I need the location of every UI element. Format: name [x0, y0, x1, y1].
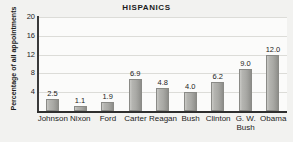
bar-slot: 9.0	[232, 17, 260, 111]
bar-value-label: 2.5	[37, 89, 68, 98]
y-axis-tick-label: 12	[1, 51, 35, 59]
x-axis-spine	[37, 111, 287, 113]
y-axis-tick-label: 8	[1, 69, 35, 77]
bar	[184, 92, 197, 111]
bar-slot: 1.1	[67, 17, 95, 111]
bar-value-label: 1.9	[92, 92, 123, 101]
bar-slot: 6.2	[204, 17, 232, 111]
bar	[211, 82, 224, 111]
chart-title: HISPANICS	[0, 3, 293, 12]
bar-value-label: 6.9	[120, 69, 151, 78]
x-axis-tick-label: Obama	[254, 114, 292, 123]
bar-value-label: 4.0	[175, 82, 206, 91]
bar	[46, 99, 59, 111]
bar	[129, 79, 142, 111]
y-axis-tick-label: 16	[1, 32, 35, 40]
bar-slot: 1.9	[94, 17, 122, 111]
bar-value-label: 4.8	[147, 78, 178, 87]
bar-value-label: 6.2	[202, 72, 233, 81]
hispanics-bar-chart: HISPANICS Percentage of all appointments…	[0, 0, 293, 142]
bar-value-label: 9.0	[230, 59, 261, 68]
bar	[101, 102, 114, 111]
bar-slot: 4.0	[177, 17, 205, 111]
bar	[74, 106, 87, 111]
bar-slot: 12.0	[259, 17, 287, 111]
bar-slot: 2.5	[39, 17, 67, 111]
y-axis-tick-labels: 20161284	[0, 0, 35, 142]
bar-slot: 4.8	[149, 17, 177, 111]
y-axis-tick-label: 4	[1, 88, 35, 96]
bar-slot: 6.9	[122, 17, 150, 111]
bar-value-label: 12.0	[257, 45, 288, 54]
y-axis-tick-label: 20	[1, 13, 35, 21]
bar-value-label: 1.1	[65, 96, 96, 105]
bar	[156, 88, 169, 111]
bar	[266, 55, 279, 111]
bar	[239, 69, 252, 111]
